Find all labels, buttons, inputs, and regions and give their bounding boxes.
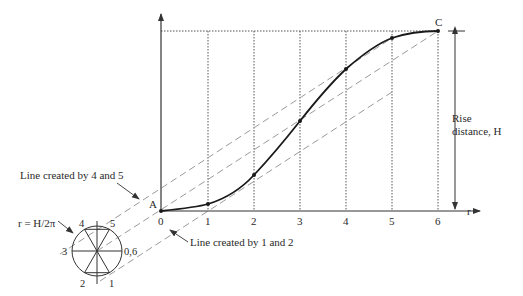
point-c-label: C (435, 16, 442, 28)
x-tick-labels: 0 1 2 3 4 5 6 (158, 215, 441, 227)
svg-text:0: 0 (158, 215, 164, 227)
rise-label-1: Rise (452, 112, 472, 124)
line-1-2-label: Line created by 1 and 2 (190, 236, 294, 248)
line-4-5-label: Line created by 4 and 5 (20, 169, 124, 181)
svg-text:1: 1 (109, 278, 114, 289)
svg-text:5: 5 (110, 218, 115, 229)
point-a-label: A (149, 198, 157, 210)
generating-circle (72, 221, 122, 284)
r-axis-label: r (467, 205, 471, 217)
svg-text:6: 6 (435, 215, 441, 227)
svg-text:2: 2 (251, 215, 257, 227)
svg-text:2: 2 (80, 278, 85, 289)
svg-text:4: 4 (343, 215, 349, 227)
line-1-2 (100, 92, 392, 281)
svg-text:4: 4 (79, 218, 85, 229)
svg-text:3: 3 (62, 246, 67, 257)
radius-label: r = H/2π (18, 217, 56, 229)
line-a-c (97, 31, 438, 251)
svg-text:1: 1 (205, 215, 211, 227)
cycloidal-cam-diagram: A C r 0 1 2 3 4 5 6 Rise distance, H Lin… (0, 0, 523, 296)
svg-text:3: 3 (297, 215, 303, 227)
leaders (58, 183, 188, 242)
axes (161, 14, 480, 211)
rise-label-2: distance, H (452, 125, 502, 137)
svg-text:5: 5 (389, 215, 395, 227)
svg-text:0,6: 0,6 (124, 246, 137, 257)
